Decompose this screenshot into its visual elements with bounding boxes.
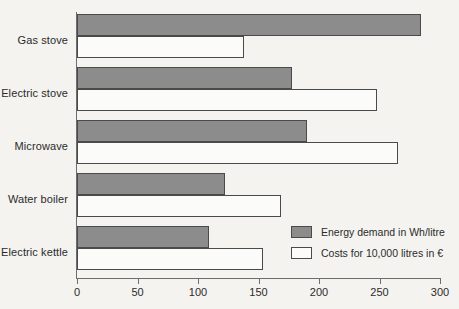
bar-costs-water-boiler: [77, 195, 281, 217]
x-tick-label-50: 50: [131, 286, 143, 298]
bar-energy-electric-stove: [77, 67, 292, 89]
bar-costs-gas-stove: [77, 36, 244, 58]
y-axis-label-electric-stove: Electric stove: [1, 87, 68, 99]
y-axis-label-gas-stove: Gas stove: [18, 34, 68, 46]
y-axis-label-electric-kettle: Electric kettle: [1, 246, 68, 258]
bar-energy-water-boiler: [77, 173, 225, 195]
legend-item-energy-demand: Energy demand in Wh/litre: [291, 221, 453, 242]
legend-label-energy-demand: Energy demand in Wh/litre: [321, 226, 445, 238]
chart-legend: Energy demand in Wh/litre Costs for 10,0…: [291, 221, 453, 263]
bar-costs-electric-kettle: [77, 248, 263, 270]
x-tick-label-150: 150: [249, 286, 267, 298]
x-tick-label-300: 300: [431, 286, 449, 298]
x-tick-mark: [440, 279, 441, 284]
y-axis-label-water-boiler: Water boiler: [8, 193, 68, 205]
x-tick-mark: [259, 279, 260, 284]
x-tick-mark: [319, 279, 320, 284]
x-tick-mark: [77, 279, 78, 284]
x-tick-label-100: 100: [189, 286, 207, 298]
y-axis-labels: Gas stove Electric stove Microwave Water…: [0, 0, 72, 309]
legend-item-costs: Costs for 10,000 litres in €: [291, 242, 453, 263]
x-tick-label-250: 250: [370, 286, 388, 298]
bar-energy-gas-stove: [77, 14, 421, 36]
x-tick-mark: [138, 279, 139, 284]
bar-energy-electric-kettle: [77, 226, 209, 248]
bar-energy-microwave: [77, 120, 307, 142]
bar-costs-microwave: [77, 142, 398, 164]
legend-swatch-white-icon: [291, 247, 312, 259]
legend-label-costs: Costs for 10,000 litres in €: [321, 247, 443, 259]
x-tick-label-0: 0: [74, 286, 80, 298]
bar-costs-electric-stove: [77, 89, 377, 111]
horizontal-bar-chart: Gas stove Electric stove Microwave Water…: [0, 0, 459, 309]
x-tick-label-200: 200: [310, 286, 328, 298]
x-tick-mark: [380, 279, 381, 284]
x-tick-mark: [198, 279, 199, 284]
y-axis-label-microwave: Microwave: [15, 140, 68, 152]
legend-swatch-gray-icon: [291, 226, 312, 238]
